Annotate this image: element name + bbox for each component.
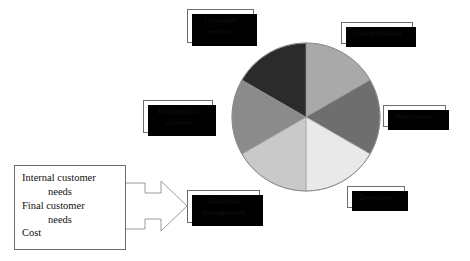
requirement-line: needs — [22, 185, 120, 199]
callout-warehouse[interactable]: Warehouse — [383, 105, 446, 127]
callout-label: Materials management — [199, 196, 248, 217]
callout-information-systems[interactable]: Information systems — [143, 100, 213, 133]
callout-label: Transportation — [349, 28, 405, 39]
diagram-canvas: Customer service Transportation Warehous… — [0, 0, 470, 261]
requirement-line: Cost — [22, 226, 120, 240]
callout-transportation[interactable]: Transportation — [341, 22, 413, 44]
callout-inventory[interactable]: Inventory — [347, 186, 405, 208]
callout-label: Information systems — [155, 106, 202, 127]
callout-materials-management[interactable]: Materials management — [187, 190, 260, 223]
callout-label: Inventory — [356, 192, 395, 203]
logistics-pie-chart — [231, 42, 381, 192]
callout-customer-service[interactable]: Customer service — [187, 9, 254, 43]
requirements-box: Internal customer needs Final customer n… — [14, 165, 126, 250]
callout-label: Warehouse — [393, 111, 437, 122]
requirement-line: Internal customer — [22, 171, 120, 185]
requirement-line: needs — [22, 213, 120, 227]
flow-arrow-right-icon — [117, 178, 189, 234]
requirement-line: Final customer — [22, 199, 120, 213]
callout-label: Customer service — [201, 15, 240, 36]
pie-slices — [232, 43, 380, 191]
arrow-shape — [119, 181, 187, 231]
